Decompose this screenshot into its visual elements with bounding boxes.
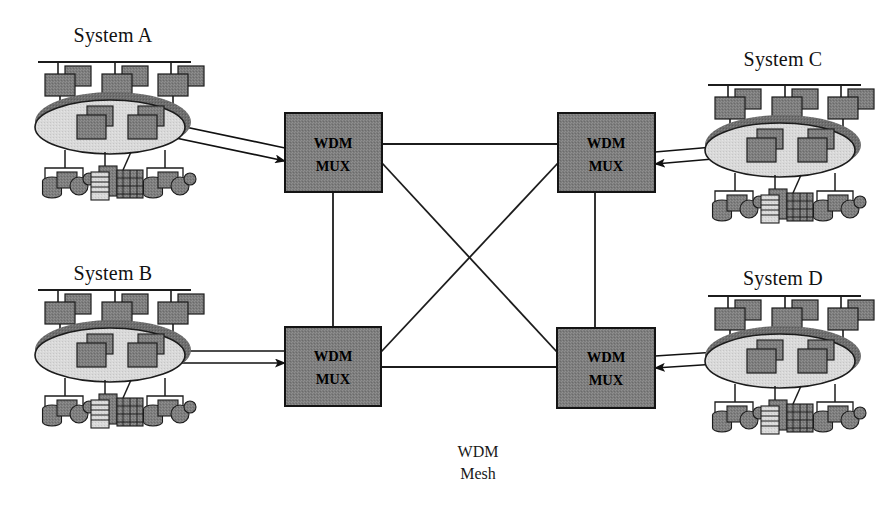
system-c-title: System C: [744, 48, 823, 71]
mesh-caption-line2: Mesh: [460, 465, 496, 482]
mux-top-right-box[interactable]: [558, 113, 655, 192]
system-a-title: System A: [74, 24, 153, 47]
wdm-mesh-diagram: System A System B System C System D WDM …: [0, 0, 891, 508]
mux-top-left-label-line2: MUX: [316, 158, 351, 174]
diagram-canvas: System A System B System C System D WDM …: [0, 0, 891, 508]
cluster-glyph-system-d: [705, 296, 874, 434]
system-d-title: System D: [743, 267, 823, 290]
mux-bottom-right-label-line2: MUX: [589, 372, 624, 388]
system-b-title: System B: [74, 262, 153, 285]
mux-bottom-left-label-line2: MUX: [316, 371, 351, 387]
mux-top-right-label-line2: MUX: [589, 158, 624, 174]
mux-node-top-left[interactable]: WDM MUX: [285, 113, 382, 192]
mux-bottom-right-label-line1: WDM: [587, 349, 626, 365]
mux-bottom-left-box[interactable]: [285, 327, 381, 406]
mux-bottom-left-label-line1: WDM: [314, 348, 353, 364]
mux-top-right-label-line1: WDM: [587, 135, 626, 151]
mux-top-left-label-line1: WDM: [314, 135, 353, 151]
cluster-glyph-system-a: [35, 62, 204, 200]
cluster-glyph-system-b: [35, 290, 204, 428]
mux-node-bottom-right[interactable]: WDM MUX: [557, 328, 655, 408]
mux-top-left-box[interactable]: [285, 113, 382, 192]
mux-bottom-right-box[interactable]: [557, 328, 655, 408]
mux-node-bottom-left[interactable]: WDM MUX: [285, 327, 381, 406]
mux-node-top-right[interactable]: WDM MUX: [558, 113, 655, 192]
cluster-glyph-system-c: [705, 85, 874, 223]
mesh-caption-line1: WDM: [458, 443, 499, 460]
